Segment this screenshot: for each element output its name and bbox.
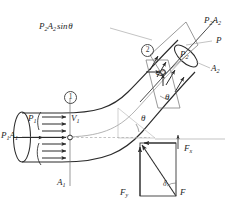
section-marker-2: 2: [141, 44, 154, 57]
section-marker-1: 1: [64, 91, 77, 104]
pipe-bend-figure: 1 2 P1A1 P1 V1 A1 P2A2 sin θ P2A2 P P2 A…: [0, 0, 240, 215]
vertical-component-leader: [110, 28, 152, 40]
label-theta-outlet: θ: [165, 93, 169, 102]
outlet-axis-line: [140, 20, 215, 102]
label-force-resultant: F: [180, 188, 186, 197]
pressure-leader: [186, 41, 212, 45]
label-outlet-pressure: P2: [180, 50, 189, 60]
figure-drawing: [0, 0, 240, 215]
inlet-pressure-bracket: [38, 112, 41, 130]
label-outlet-pressure-force: P2A2: [204, 16, 221, 26]
outlet-area-leader: [196, 62, 210, 68]
label-theta-centerline: θ: [141, 114, 145, 123]
label-outlet-area: A2: [211, 64, 220, 74]
label-vertical-component: P2A2 sin θ: [39, 22, 73, 32]
label-inlet-pressure: P1: [28, 114, 37, 124]
label-pressure: P: [216, 36, 222, 45]
label-inlet-pressure-force: P1A1: [1, 131, 18, 141]
label-force-x: Fx: [184, 144, 192, 154]
label-force-y: Fy: [120, 188, 128, 198]
label-delta-angle: δ: [163, 180, 167, 188]
label-inlet-velocity: V1: [71, 114, 80, 124]
label-inlet-area: A1: [57, 178, 66, 188]
force-resultant-arrow: [142, 145, 176, 196]
inlet-node: [68, 135, 73, 140]
theta-arc-centerline: [136, 124, 139, 132]
